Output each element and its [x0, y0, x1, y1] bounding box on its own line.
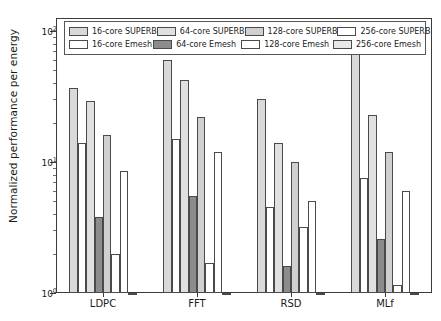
plot-area	[56, 18, 432, 293]
bar-mlf-64-core-emesh	[377, 239, 385, 293]
bar-mlf-128-core-emesh	[393, 285, 401, 293]
bar-ldpc-128-core-superb	[103, 135, 111, 293]
bar-fft-256-core-emesh	[222, 293, 230, 295]
bar-ldpc-16-core-superb	[69, 88, 77, 293]
bar-ldpc-128-core-emesh	[111, 254, 119, 293]
legend-entry-64-core-superb[interactable]: 64-core SUPERB	[157, 25, 245, 38]
bar-mlf-16-core-emesh	[360, 178, 368, 293]
bar-fft-16-core-emesh	[172, 139, 180, 293]
legend-swatch-128-core-emesh	[241, 40, 260, 49]
chart-figure: Normalized performance per energy 100101…	[0, 0, 441, 321]
legend-entry-16-core-superb[interactable]: 16-core SUPERB	[69, 25, 157, 38]
bar-mlf-256-core-superb	[402, 191, 410, 293]
bar-rsd-256-core-superb	[308, 201, 316, 293]
legend-swatch-64-core-superb	[157, 27, 176, 36]
bar-fft-128-core-emesh	[205, 263, 213, 293]
bar-rsd-128-core-superb	[291, 162, 299, 293]
bar-ldpc-16-core-emesh	[78, 143, 86, 293]
legend-label-256-core-superb: 256-core SUPERB	[360, 27, 430, 36]
bar-mlf-256-core-emesh	[410, 293, 418, 295]
legend-label-128-core-emesh: 128-core Emesh	[264, 40, 329, 49]
legend-swatch-256-core-emesh	[333, 40, 352, 49]
legend-entry-128-core-superb[interactable]: 128-core SUPERB	[245, 25, 338, 38]
bar-ldpc-256-core-superb	[120, 171, 128, 293]
y-axis-label: Normalized performance per energy	[7, 1, 19, 251]
legend-label-128-core-superb: 128-core SUPERB	[268, 27, 338, 36]
legend-label-16-core-superb: 16-core SUPERB	[92, 27, 157, 36]
legend-row-emesh: 16-core Emesh 64-core Emesh 128-core Eme…	[69, 38, 421, 51]
bar-fft-64-core-emesh	[189, 196, 197, 293]
bar-mlf-64-core-superb	[368, 115, 376, 293]
bar-ldpc-256-core-emesh	[128, 293, 136, 295]
bar-rsd-16-core-superb	[257, 99, 265, 293]
bar-rsd-16-core-emesh	[266, 207, 274, 293]
legend-swatch-256-core-superb	[337, 27, 356, 36]
legend-entry-256-core-emesh[interactable]: 256-core Emesh	[333, 38, 421, 51]
legend-swatch-64-core-emesh	[153, 40, 172, 49]
bar-ldpc-64-core-superb	[86, 101, 94, 293]
x-tick-label-mlf: MLf	[345, 298, 425, 309]
legend-entry-16-core-emesh[interactable]: 16-core Emesh	[69, 38, 153, 51]
y-tick-label: 100	[17, 287, 57, 299]
x-tick-label-rsd: RSD	[251, 298, 331, 309]
bar-rsd-64-core-superb	[274, 143, 282, 293]
bar-mlf-16-core-superb	[351, 47, 359, 293]
legend-entry-64-core-emesh[interactable]: 64-core Emesh	[153, 38, 241, 51]
y-tick-label: 102	[17, 25, 57, 37]
y-tick-label: 101	[17, 156, 57, 168]
legend-swatch-128-core-superb	[245, 27, 264, 36]
x-tick-mark	[291, 293, 292, 297]
bar-mlf-128-core-superb	[385, 152, 393, 293]
chart-legend: 16-core SUPERB 64-core SUPERB 128-core S…	[64, 21, 426, 55]
legend-label-64-core-superb: 64-core SUPERB	[180, 27, 245, 36]
x-tick-label-ldpc: LDPC	[63, 298, 143, 309]
legend-label-16-core-emesh: 16-core Emesh	[92, 40, 152, 49]
legend-row-superb: 16-core SUPERB 64-core SUPERB 128-core S…	[69, 25, 421, 38]
bar-fft-128-core-superb	[197, 117, 205, 293]
bar-rsd-64-core-emesh	[283, 266, 291, 293]
legend-swatch-16-core-emesh	[69, 40, 88, 49]
bar-fft-256-core-superb	[214, 152, 222, 293]
bar-fft-64-core-superb	[180, 80, 188, 293]
bar-ldpc-64-core-emesh	[95, 217, 103, 293]
x-tick-mark	[385, 293, 386, 297]
bar-fft-16-core-superb	[163, 60, 171, 293]
bar-rsd-256-core-emesh	[316, 293, 324, 295]
legend-label-256-core-emesh: 256-core Emesh	[356, 40, 421, 49]
bar-rsd-128-core-emesh	[299, 227, 307, 293]
x-tick-label-fft: FFT	[157, 298, 237, 309]
legend-swatch-16-core-superb	[69, 27, 88, 36]
x-tick-mark	[103, 293, 104, 297]
x-tick-mark	[197, 293, 198, 297]
legend-label-64-core-emesh: 64-core Emesh	[176, 40, 236, 49]
legend-entry-256-core-superb[interactable]: 256-core SUPERB	[337, 25, 430, 38]
legend-entry-128-core-emesh[interactable]: 128-core Emesh	[241, 38, 333, 51]
